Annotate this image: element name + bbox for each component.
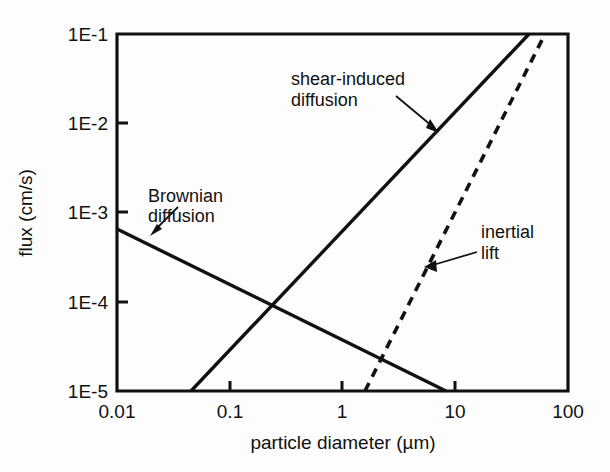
- x-axis-title: particle diameter (µm): [250, 432, 435, 453]
- annotation-inertial-line2: lift: [481, 243, 499, 263]
- y-axis-title: flux (cm/s): [15, 169, 36, 257]
- y-tick-label-1e-1: 1E-1: [68, 24, 108, 45]
- x-tick-label-100: 100: [552, 401, 584, 422]
- x-tick-label-0p01: 0.01: [99, 401, 136, 422]
- y-tick-label-1e-4: 1E-4: [68, 292, 109, 313]
- flux-vs-particle-diameter-chart: 1E-1 1E-2 1E-3 1E-4 1E-5 0.01 0.1 1 10 1…: [0, 0, 610, 472]
- y-tick-label-1e-2: 1E-2: [68, 113, 108, 134]
- y-tick-label-1e-5: 1E-5: [68, 381, 108, 402]
- annotation-shear-line1: shear-induced: [291, 69, 405, 89]
- x-tick-label-10: 10: [444, 401, 465, 422]
- chart-figure: 1E-1 1E-2 1E-3 1E-4 1E-5 0.01 0.1 1 10 1…: [0, 0, 610, 472]
- annotation-brownian-line1: Brownian: [148, 186, 223, 206]
- x-tick-label-0p1: 0.1: [217, 401, 243, 422]
- x-tick-label-1: 1: [337, 401, 348, 422]
- annotation-inertial-line1: inertial: [481, 222, 534, 242]
- annotation-shear-line2: diffusion: [291, 90, 358, 110]
- y-tick-label-1e-3: 1E-3: [68, 202, 108, 223]
- annotation-brownian-line2: diffusion: [148, 206, 215, 226]
